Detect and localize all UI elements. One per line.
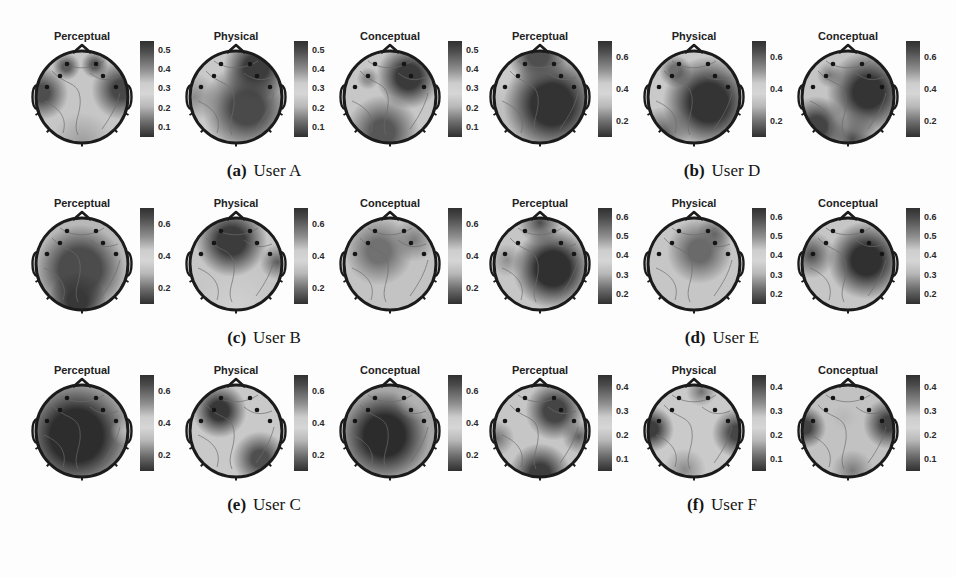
colorbar-tick-label: 0.1 [466, 123, 479, 132]
condition-title: Perceptual [30, 30, 134, 43]
colorbar-tick-label: 0.1 [616, 455, 629, 464]
condition-title: Conceptual [796, 30, 900, 43]
colorbar-tick-label: 0.2 [770, 117, 783, 126]
colorbar-tick-label: 0.2 [312, 284, 325, 293]
head-outline-icon [30, 43, 134, 147]
colorbar-tick-label: 0.4 [924, 383, 937, 392]
topoplot-panel: Physical 0.6 0.5 0.4 0.3 [642, 197, 782, 314]
caption-index: (c) [227, 328, 246, 347]
head-outline-icon [488, 43, 592, 147]
panel-body: 0.6 0.5 0.4 0.3 0.2 [796, 210, 936, 314]
topoplot-panel: Perceptual 0.6 0.4 0.2 [30, 197, 170, 314]
colorbar-tick-label: 0.4 [924, 251, 937, 260]
head-outline-icon [338, 43, 442, 147]
colorbar-tick-label: 0.4 [770, 383, 783, 392]
colorbar-ticks: 0.6 0.4 0.2 [466, 375, 479, 471]
colorbar-tick-label: 0.2 [616, 290, 629, 299]
colorbar-tick-label: 0.4 [158, 252, 171, 261]
colorbar-tick-label: 0.1 [158, 123, 171, 132]
panel-body: 0.6 0.4 0.2 [30, 210, 170, 314]
colorbar-tick-label: 0.4 [616, 383, 629, 392]
head-outline-icon [184, 377, 288, 481]
panel-body: 0.6 0.4 0.2 [184, 210, 324, 314]
colorbar-tick-label: 0.4 [158, 419, 171, 428]
caption-user: User B [253, 328, 301, 347]
colorbar-tick-label: 0.2 [770, 290, 783, 299]
caption-index: (f) [687, 495, 704, 514]
topoplot-panel: Physical 0.6 0.4 0.2 [184, 197, 324, 314]
colorbar-tick-label: 0.4 [770, 85, 783, 94]
colorbar-tick-label: 0.4 [924, 85, 937, 94]
colorbar-ticks: 0.4 0.3 0.2 0.1 [924, 375, 937, 471]
colorbar-gradient [906, 375, 920, 471]
colorbar-tick-label: 0.2 [924, 117, 937, 126]
head-outline-icon [642, 210, 746, 314]
condition-title: Physical [184, 364, 288, 377]
head-outline-icon [642, 43, 746, 147]
colorbar-tick-label: 0.3 [158, 84, 171, 93]
condition-title: Conceptual [338, 364, 442, 377]
panel-body: 0.5 0.4 0.3 0.2 0.1 [184, 43, 324, 147]
subfigure-caption: (f)User F [498, 495, 946, 515]
topoplot-panel: Perceptual 0.4 0.3 0.2 0.1 [488, 364, 628, 481]
colorbar: 0.6 0.4 0.2 [448, 208, 479, 304]
head-outline-icon [184, 210, 288, 314]
colorbar-tick-label: 0.3 [616, 271, 629, 280]
colorbar-gradient [140, 41, 154, 137]
colorbar-tick-label: 0.3 [924, 407, 937, 416]
colorbar-tick-label: 0.6 [158, 387, 171, 396]
head-outline-icon [796, 43, 900, 147]
colorbar-ticks: 0.4 0.3 0.2 0.1 [616, 375, 629, 471]
colorbar-tick-label: 0.6 [924, 213, 937, 222]
colorbar-tick-label: 0.1 [924, 455, 937, 464]
figure-row-2: Perceptual 0.6 0.4 0.2 [30, 197, 956, 348]
panel-body: 0.6 0.4 0.2 [488, 43, 628, 147]
colorbar-tick-label: 0.2 [312, 104, 325, 113]
colorbar-tick-label: 0.4 [466, 65, 479, 74]
caption-index: (e) [227, 495, 246, 514]
panel-strip: Perceptual 0.6 0.4 0.2 [30, 197, 478, 314]
topoplot-panel: Conceptual 0.6 0.4 0.2 [338, 364, 478, 481]
colorbar-tick-label: 0.6 [924, 53, 937, 62]
colorbar-gradient [598, 208, 612, 304]
panel-body: 0.6 0.4 0.2 [338, 377, 478, 481]
scalp-map [488, 43, 592, 147]
colorbar-gradient [140, 208, 154, 304]
colorbar-tick-label: 0.2 [924, 431, 937, 440]
subfigure-caption: (d)User E [498, 328, 946, 348]
colorbar-tick-label: 0.4 [616, 251, 629, 260]
scalp-map [30, 377, 134, 481]
colorbar-tick-label: 0.2 [616, 117, 629, 126]
topoplot-panel: Physical 0.6 0.4 0.2 [642, 30, 782, 147]
colorbar-tick-label: 0.6 [616, 213, 629, 222]
colorbar-tick-label: 0.2 [158, 451, 171, 460]
colorbar: 0.6 0.5 0.4 0.3 0.2 [906, 208, 937, 304]
colorbar-tick-label: 0.3 [466, 84, 479, 93]
colorbar-ticks: 0.5 0.4 0.3 0.2 0.1 [466, 41, 479, 137]
scalp-map [338, 210, 442, 314]
condition-title: Perceptual [30, 364, 134, 377]
scalp-map [338, 377, 442, 481]
scalp-map [796, 43, 900, 147]
caption-index: (b) [684, 161, 705, 180]
caption-index: (a) [227, 161, 247, 180]
colorbar: 0.5 0.4 0.3 0.2 0.1 [448, 41, 479, 137]
panel-strip: Perceptual 0.6 0.4 0.2 [488, 30, 936, 147]
scalp-map [184, 43, 288, 147]
colorbar: 0.6 0.4 0.2 [906, 41, 937, 137]
head-outline-icon [30, 210, 134, 314]
subfigure-group-a: Perceptual 0.5 0.4 0.3 0.2 [30, 30, 478, 181]
colorbar: 0.4 0.3 0.2 0.1 [906, 375, 937, 471]
colorbar: 0.4 0.3 0.2 0.1 [598, 375, 629, 471]
colorbar-gradient [448, 41, 462, 137]
colorbar: 0.6 0.4 0.2 [598, 41, 629, 137]
panel-body: 0.6 0.5 0.4 0.3 0.2 [488, 210, 628, 314]
colorbar-tick-label: 0.5 [770, 232, 783, 241]
colorbar-tick-label: 0.3 [770, 407, 783, 416]
colorbar-tick-label: 0.1 [312, 123, 325, 132]
colorbar-tick-label: 0.2 [924, 290, 937, 299]
scalp-map [30, 210, 134, 314]
panel-body: 0.4 0.3 0.2 0.1 [488, 377, 628, 481]
colorbar-gradient [294, 375, 308, 471]
head-outline-icon [796, 377, 900, 481]
